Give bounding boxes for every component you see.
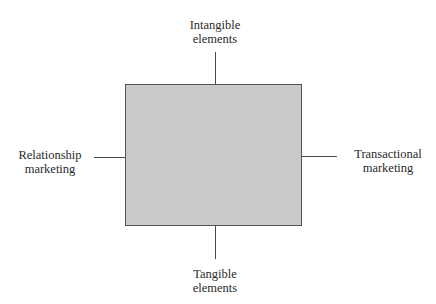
label-left-line2: marketing — [5, 163, 95, 177]
label-top-line2: elements — [165, 33, 265, 47]
label-left-line1: Relationship — [5, 149, 95, 163]
axis-line-left — [94, 157, 125, 158]
label-relationship-marketing: Relationship marketing — [5, 149, 95, 176]
label-bottom-line1: Tangible — [165, 268, 265, 282]
label-transactional-marketing: Transactional marketing — [340, 148, 436, 175]
axis-line-right — [302, 156, 337, 157]
label-intangible-elements: Intangible elements — [165, 19, 265, 46]
marketing-positioning-diagram: Intangible elements Tangible elements Re… — [0, 0, 436, 304]
label-bottom-line2: elements — [165, 282, 265, 296]
axis-line-bottom — [215, 226, 216, 259]
label-right-line1: Transactional — [340, 148, 436, 162]
central-box — [125, 84, 302, 226]
axis-line-top — [215, 52, 216, 84]
label-top-line1: Intangible — [165, 19, 265, 33]
label-right-line2: marketing — [340, 162, 436, 176]
label-tangible-elements: Tangible elements — [165, 268, 265, 295]
